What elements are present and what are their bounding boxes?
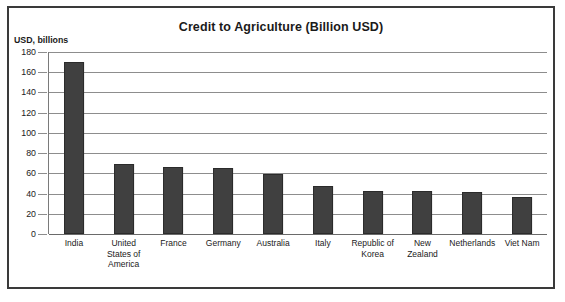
bar[interactable] — [512, 197, 532, 234]
chart-frame: Credit to Agriculture (Billion USD) USD,… — [7, 6, 555, 289]
x-axis-label-line: France — [149, 238, 199, 249]
y-axis-tick-label: 100 — [21, 128, 36, 138]
bar-column — [447, 52, 497, 234]
x-axis-label-line: Netherlands — [447, 238, 497, 249]
x-axis-label-line: Australia — [248, 238, 298, 249]
y-tick-mark-60 — [38, 173, 47, 174]
y-tick-mark-40 — [38, 194, 47, 195]
x-axis-category-label: Germany — [198, 238, 248, 249]
y-tick-mark-0 — [38, 234, 47, 235]
bar[interactable] — [313, 186, 333, 234]
x-axis-label-line: Zealand — [398, 249, 448, 260]
y-axis-tick-label: 120 — [21, 108, 36, 118]
y-axis-title: USD, billions — [14, 35, 68, 45]
bar-column — [497, 52, 547, 234]
x-axis-category-label: India — [49, 238, 99, 249]
bar[interactable] — [462, 192, 482, 234]
y-tick-mark-20 — [38, 214, 47, 215]
x-axis-label-line: Viet Nam — [497, 238, 547, 249]
bar[interactable] — [363, 191, 383, 234]
bar-column — [248, 52, 298, 234]
x-axis-category-label: Republic ofKorea — [348, 238, 398, 259]
y-axis-tick-label: 60 — [26, 168, 36, 178]
x-axis-label-line: States of — [99, 249, 149, 260]
y-tick-mark-180 — [38, 52, 47, 53]
y-axis-tick-label: 0 — [31, 229, 36, 239]
y-tick-mark-100 — [38, 133, 47, 134]
y-tick-mark-120 — [38, 113, 47, 114]
x-axis-label-line: Republic of — [348, 238, 398, 249]
y-axis-tick-label: 80 — [26, 148, 36, 158]
x-axis-labels-group: IndiaUnitedStates ofAmericaFranceGermany… — [49, 238, 547, 286]
x-axis-label-line: America — [99, 259, 149, 270]
bar[interactable] — [114, 164, 134, 234]
x-axis-label-line: India — [49, 238, 99, 249]
y-tick-mark-160 — [38, 72, 47, 73]
x-axis-category-label: Netherlands — [447, 238, 497, 249]
bar-column — [149, 52, 199, 234]
y-tick-mark-80 — [38, 153, 47, 154]
bar-column — [298, 52, 348, 234]
x-axis-category-label: France — [149, 238, 199, 249]
y-axis-tick-label: 160 — [21, 67, 36, 77]
plot-inner: 180160140120100806040200 — [49, 52, 547, 234]
bar[interactable] — [413, 191, 433, 234]
y-axis-tick-label: 180 — [21, 47, 36, 57]
y-axis-tick-label: 140 — [21, 87, 36, 97]
bar[interactable] — [164, 167, 184, 234]
x-axis-category-label: Australia — [248, 238, 298, 249]
bar[interactable] — [213, 168, 233, 234]
bar[interactable] — [64, 62, 84, 234]
x-axis-label-line: New — [398, 238, 448, 249]
plot-area: 180160140120100806040200 — [49, 46, 547, 234]
x-axis-label-line: Germany — [198, 238, 248, 249]
gridline-0 — [49, 234, 547, 235]
y-axis-tick-label: 40 — [26, 189, 36, 199]
x-axis-category-label: UnitedStates ofAmerica — [99, 238, 149, 270]
bar-column — [348, 52, 398, 234]
x-axis-label-line: Italy — [298, 238, 348, 249]
bar-column — [198, 52, 248, 234]
bar-column — [398, 52, 448, 234]
x-axis-category-label: Italy — [298, 238, 348, 249]
x-axis-label-line: United — [99, 238, 149, 249]
y-axis-tick-label: 20 — [26, 209, 36, 219]
bar[interactable] — [263, 174, 283, 234]
chart-title: Credit to Agriculture (Billion USD) — [9, 20, 553, 34]
x-axis-category-label: Viet Nam — [497, 238, 547, 249]
x-axis-label-line: Korea — [348, 249, 398, 260]
x-axis-category-label: NewZealand — [398, 238, 448, 259]
y-tick-mark-140 — [38, 92, 47, 93]
bar-column — [49, 52, 99, 234]
bar-column — [99, 52, 149, 234]
